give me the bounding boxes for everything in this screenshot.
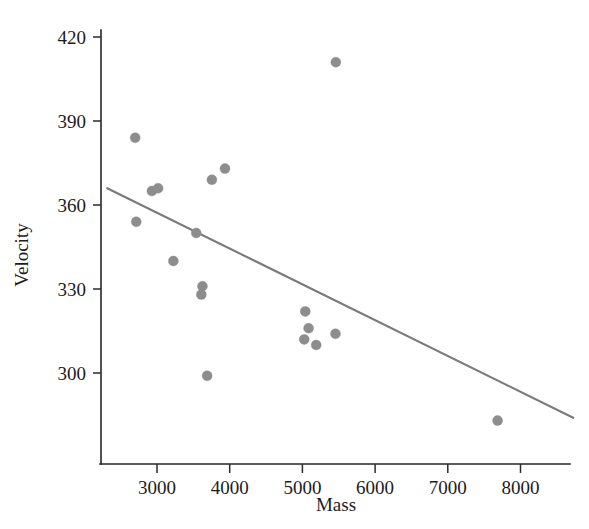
x-axis-title: Mass [316, 494, 356, 515]
x-tick-label: 6000 [356, 477, 394, 498]
data-point [220, 164, 230, 174]
y-tick-label: 300 [58, 363, 87, 384]
data-point [147, 186, 157, 196]
data-point [300, 306, 310, 316]
data-point [131, 217, 141, 227]
x-tick-group: 300040005000600070008000 [138, 464, 540, 498]
data-point [299, 334, 309, 344]
trend-line [107, 188, 573, 418]
x-tick-label: 7000 [429, 477, 467, 498]
data-point [168, 256, 178, 266]
y-tick-label: 390 [58, 111, 87, 132]
data-point [304, 323, 314, 333]
x-tick-label: 3000 [138, 477, 176, 498]
y-tick-group: 300330360390420 [58, 27, 102, 384]
data-point [493, 416, 503, 426]
scatter-chart: 300330360390420 300040005000600070008000… [0, 0, 589, 529]
data-point [202, 371, 212, 381]
x-axis-group: 300040005000600070008000 [100, 464, 570, 498]
plot-svg: 300330360390420 300040005000600070008000… [0, 0, 589, 529]
data-point [330, 329, 340, 339]
data-point [331, 57, 341, 67]
data-point-group [130, 57, 502, 425]
y-axis-group: 300330360390420 [58, 27, 102, 465]
y-tick-label: 360 [58, 195, 87, 216]
trend-line-group [107, 188, 573, 418]
data-point [311, 340, 321, 350]
y-tick-label: 330 [58, 279, 87, 300]
data-point [196, 290, 206, 300]
y-tick-label: 420 [58, 27, 87, 48]
data-point [130, 133, 140, 143]
data-point [207, 175, 217, 185]
x-tick-label: 8000 [502, 477, 540, 498]
x-tick-label: 4000 [211, 477, 249, 498]
data-point [191, 228, 201, 238]
y-axis-title: Velocity [11, 223, 32, 287]
